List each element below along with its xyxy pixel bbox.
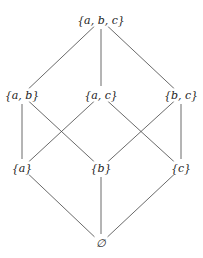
node-bc: {b, c} (163, 89, 199, 102)
node-a: {a} (11, 162, 34, 175)
node-b: {b} (89, 162, 112, 175)
node-ab: {a, b} (4, 89, 41, 102)
node-abc: {a, b, c} (76, 14, 126, 27)
edge-a-empty (29, 174, 95, 237)
edges (0, 0, 203, 258)
edge-abc-ab (29, 26, 95, 89)
node-empty: ∅ (95, 237, 107, 250)
node-c: {c} (170, 162, 192, 175)
edge-c-empty (108, 174, 175, 237)
node-ac: {a, c} (83, 89, 119, 102)
hasse-diagram: {a, b, c} {a, b} {a, c} {b, c} {a} {b} {… (0, 0, 203, 258)
edge-abc-bc (108, 26, 175, 89)
